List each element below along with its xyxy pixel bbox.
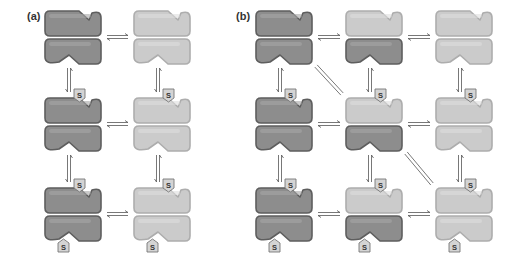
top-subunit <box>256 98 312 123</box>
bottom-subunit <box>45 216 101 241</box>
equilibrium-arrow-diagonal <box>315 65 343 95</box>
bottom-subunit <box>346 216 402 241</box>
equilibrium-arrow-vertical <box>457 155 464 182</box>
enzyme-state: S <box>134 89 190 151</box>
enzyme-state <box>134 11 190 64</box>
equilibrium-arrow-horizontal <box>318 121 340 128</box>
substrate-label: S <box>166 91 171 100</box>
equilibrium-arrow-vertical <box>155 68 162 92</box>
substrate-label: S <box>150 243 155 252</box>
substrate-badge-bottom: S <box>147 239 158 252</box>
top-subunit <box>346 188 402 213</box>
equilibrium-arrow-horizontal <box>318 34 340 41</box>
bottom-subunit <box>436 126 492 151</box>
equilibrium-arrow-horizontal <box>408 121 430 128</box>
equilibrium-arrow-diagonal <box>405 152 433 185</box>
substrate-badge-bottom: S <box>359 239 370 252</box>
top-subunit <box>134 98 190 123</box>
top-subunit <box>346 11 402 36</box>
enzyme-state: S <box>256 89 312 151</box>
panel-label: (a) <box>27 10 41 22</box>
enzyme-state: SS <box>45 179 101 252</box>
substrate-label: S <box>378 91 383 100</box>
equilibrium-arrow-horizontal <box>107 121 128 128</box>
substrate-label: S <box>452 243 457 252</box>
enzyme-state <box>45 11 101 64</box>
equilibrium-arrow-vertical <box>367 68 374 92</box>
top-subunit <box>45 188 101 213</box>
substrate-label: S <box>288 181 293 190</box>
substrate-label: S <box>77 91 82 100</box>
bottom-subunit <box>134 216 190 241</box>
equilibrium-arrow-horizontal <box>318 211 340 218</box>
panel-label: (b) <box>236 10 250 22</box>
equilibrium-arrow-vertical <box>66 155 73 182</box>
substrate-label: S <box>166 181 171 190</box>
substrate-label: S <box>378 181 383 190</box>
equilibrium-arrow-horizontal <box>107 34 128 41</box>
top-subunit <box>134 188 190 213</box>
equilibrium-arrow-horizontal <box>408 34 430 41</box>
bottom-subunit <box>256 126 312 151</box>
enzyme-state <box>436 11 492 64</box>
enzyme-state: SS <box>134 179 190 252</box>
allosteric-model-diagram: (a)SSSSSS(b)SSSSSSSSS <box>0 0 517 263</box>
substrate-badge-bottom: S <box>269 239 280 252</box>
enzyme-state <box>256 11 312 64</box>
top-subunit <box>256 188 312 213</box>
top-subunit <box>134 11 190 36</box>
top-subunit <box>436 11 492 36</box>
equilibrium-arrow-vertical <box>367 155 374 182</box>
top-subunit <box>45 98 101 123</box>
top-subunit <box>436 98 492 123</box>
equilibrium-arrow-vertical <box>277 68 284 92</box>
substrate-badge-bottom: S <box>449 239 460 252</box>
bottom-subunit <box>134 126 190 151</box>
enzyme-state: SS <box>256 179 312 252</box>
substrate-label: S <box>77 181 82 190</box>
top-subunit <box>45 11 101 36</box>
substrate-label: S <box>288 91 293 100</box>
bottom-subunit <box>256 216 312 241</box>
substrate-label: S <box>272 243 277 252</box>
enzyme-state: S <box>45 89 101 151</box>
bottom-subunit <box>45 39 101 64</box>
bottom-subunit <box>436 39 492 64</box>
equilibrium-arrow-horizontal <box>408 211 430 218</box>
substrate-label: S <box>468 91 473 100</box>
enzyme-state <box>346 11 402 64</box>
equilibrium-arrow-vertical <box>457 68 464 92</box>
bottom-subunit <box>346 126 402 151</box>
bottom-subunit <box>256 39 312 64</box>
bottom-subunit <box>134 39 190 64</box>
top-subunit <box>436 188 492 213</box>
enzyme-state: S <box>436 89 492 151</box>
enzyme-state: SS <box>346 179 402 252</box>
equilibrium-arrow-vertical <box>66 68 73 92</box>
top-subunit <box>346 98 402 123</box>
panel-b: (b) <box>236 10 250 22</box>
substrate-label: S <box>468 181 473 190</box>
bottom-subunit <box>45 126 101 151</box>
top-subunit <box>256 11 312 36</box>
substrate-label: S <box>61 243 66 252</box>
substrate-badge-bottom: S <box>58 239 69 252</box>
equilibrium-arrow-vertical <box>277 155 284 182</box>
equilibrium-arrow-horizontal <box>107 211 128 218</box>
substrate-label: S <box>362 243 367 252</box>
enzyme-state: SS <box>436 179 492 252</box>
panel-a: (a) <box>27 10 41 22</box>
equilibrium-arrow-vertical <box>155 155 162 182</box>
enzyme-state: S <box>346 89 402 151</box>
bottom-subunit <box>346 39 402 64</box>
bottom-subunit <box>436 216 492 241</box>
